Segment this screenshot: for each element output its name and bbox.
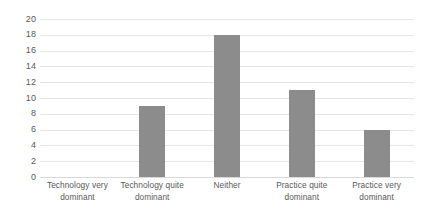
bar [214,35,240,177]
y-axis-tick-label: 2 [0,157,36,166]
x-axis: Technology very dominantTechnology quite… [40,180,414,214]
gridline [40,177,414,178]
bar-slot [115,19,190,177]
bar [289,90,315,177]
y-axis-tick-label: 12 [0,78,36,87]
y-axis-tick-label: 18 [0,30,36,39]
x-axis-tick-label: Practice very dominant [339,180,414,203]
y-axis-tick-label: 4 [0,141,36,150]
y-axis: 02468101214161820 [0,0,36,215]
bar-series [40,19,414,177]
bar [364,130,390,177]
bar [139,106,165,177]
bar-slot [40,19,115,177]
x-axis-tick-label: Practice quite dominant [264,180,339,203]
bar-slot [264,19,339,177]
x-axis-tick-label: Technology quite dominant [115,180,190,203]
y-axis-tick-label: 0 [0,173,36,182]
y-axis-tick-label: 14 [0,62,36,71]
x-axis-tick-label: Neither [190,180,265,192]
y-axis-tick-label: 10 [0,94,36,103]
bar-slot [339,19,414,177]
y-axis-tick-label: 16 [0,46,36,55]
y-axis-tick-label: 6 [0,125,36,134]
bar-chart: 02468101214161820 Technology very domina… [0,0,433,215]
x-axis-tick-label: Technology very dominant [40,180,115,203]
y-axis-tick-label: 8 [0,109,36,118]
y-axis-tick-label: 20 [0,15,36,24]
bar-slot [190,19,265,177]
